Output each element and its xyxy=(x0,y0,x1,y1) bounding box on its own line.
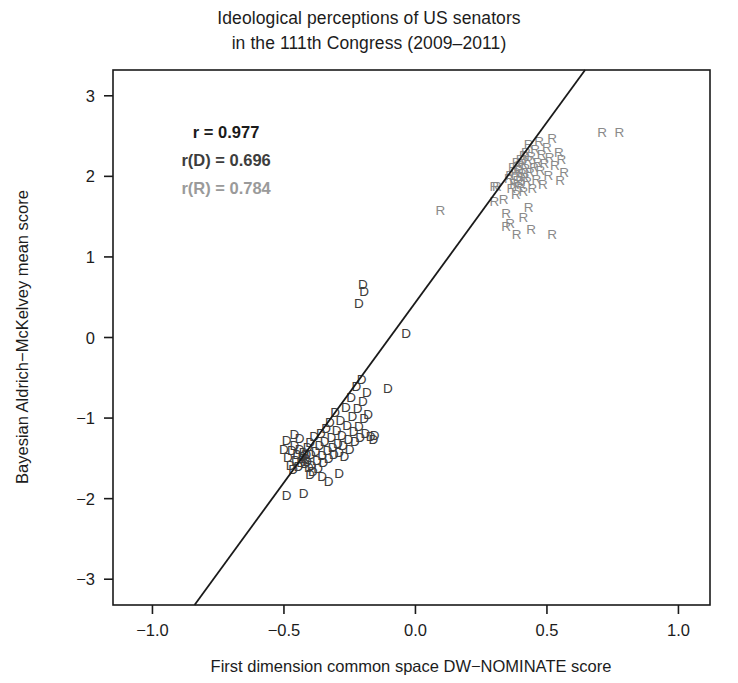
series-republicans: RRRRRRRRRRRRRRRRRRRRRRRRRRRRRRRRRRRRRRRR… xyxy=(436,125,625,242)
y-axis-ticks: −3−2−10123 xyxy=(76,87,113,588)
data-point-R: R xyxy=(512,227,522,242)
y-tick-label: 3 xyxy=(86,87,95,105)
data-point-D: D xyxy=(290,427,300,442)
y-tick-label: 1 xyxy=(86,248,95,266)
data-point-R: R xyxy=(547,227,557,242)
chart-root: Ideological perceptions of US senators i… xyxy=(0,0,738,683)
data-point-D: D xyxy=(334,466,344,481)
annotation-r-republican: r(R) = 0.784 xyxy=(181,179,271,197)
data-point-D: D xyxy=(305,467,315,482)
x-tick-label: 1.0 xyxy=(667,621,690,639)
x-tick-label: −1.0 xyxy=(136,621,169,639)
x-tick-label: 0.0 xyxy=(404,621,427,639)
y-axis-title: Bayesian Aldrich−McKelvey mean score xyxy=(13,190,31,484)
data-point-R: R xyxy=(614,125,624,140)
y-tick-label: −3 xyxy=(76,570,95,588)
data-point-D: D xyxy=(383,381,393,396)
axes-group: −1.0−0.50.00.51.0 −3−2−10123 xyxy=(76,70,710,639)
annotations-group: r = 0.977r(D) = 0.696r(R) = 0.784 xyxy=(181,123,271,197)
y-tick-label: 0 xyxy=(86,329,95,347)
data-point-R: R xyxy=(559,165,569,180)
data-point-D: D xyxy=(279,442,289,457)
data-point-R: R xyxy=(597,125,607,140)
data-point-D: D xyxy=(370,428,380,443)
x-tick-label: 0.5 xyxy=(535,621,558,639)
data-point-D: D xyxy=(317,469,327,484)
data-point-R: R xyxy=(524,200,534,215)
data-point-R: R xyxy=(436,203,446,218)
x-tick-label: −0.5 xyxy=(268,621,301,639)
data-point-D: D xyxy=(363,407,373,422)
data-point-R: R xyxy=(501,219,511,234)
scatter-plot: −1.0−0.50.00.51.0 −3−2−10123 DDDDDDDDDDD… xyxy=(0,0,738,683)
data-point-R: R xyxy=(547,131,557,146)
data-point-D: D xyxy=(299,486,309,501)
data-point-D: D xyxy=(359,284,369,299)
x-axis-ticks: −1.0−0.50.00.51.0 xyxy=(136,605,690,639)
data-point-D: D xyxy=(362,385,372,400)
series-democrats: DDDDDDDDDDDDDDDDDDDDDDDDDDDDDDDDDDDDDDDD… xyxy=(279,277,411,502)
annotation-r-overall: r = 0.977 xyxy=(193,123,260,141)
y-tick-label: −2 xyxy=(76,490,95,508)
annotation-r-democrat: r(D) = 0.696 xyxy=(181,151,270,169)
y-tick-label: 2 xyxy=(86,167,95,185)
y-tick-label: −1 xyxy=(76,409,95,427)
data-point-D: D xyxy=(401,326,411,341)
data-point-D: D xyxy=(282,488,292,503)
x-axis-title: First dimension common space DW−NOMINATE… xyxy=(211,657,612,675)
data-points-group: DDDDDDDDDDDDDDDDDDDDDDDDDDDDDDDDDDDDDDDD… xyxy=(279,125,624,503)
